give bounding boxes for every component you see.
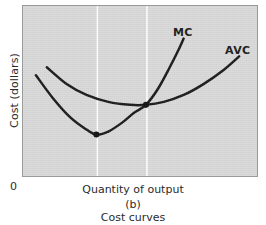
avc-curve — [47, 56, 239, 105]
cost-curves-figure: MC AVC Cost (dollars) 0 Quantity of outp… — [0, 0, 266, 225]
mc-curve-label: MC — [173, 26, 193, 39]
gridlines — [97, 6, 147, 176]
plot-svg — [23, 6, 257, 176]
x-axis-label: Quantity of output — [0, 183, 266, 196]
avc-curve-label: AVC — [225, 44, 251, 57]
panel-letter: (b) — [0, 198, 266, 211]
plot-area: MC AVC — [22, 5, 258, 177]
mc-avc-intersection-dot — [143, 102, 149, 108]
y-axis-label: Cost (dollars) — [8, 31, 21, 151]
mc-minimum-dot — [93, 131, 99, 137]
figure-caption: Cost curves — [0, 211, 266, 224]
mc-curve — [36, 39, 184, 135]
